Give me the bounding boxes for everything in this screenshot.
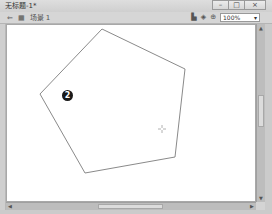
- scroll-right-arrow-icon[interactable]: ▶: [249, 203, 255, 210]
- scroll-left-arrow-icon[interactable]: ◀: [7, 203, 13, 210]
- scroll-down-arrow-icon[interactable]: ▼: [258, 195, 264, 201]
- step-number-badge: 2: [62, 90, 73, 101]
- vertical-scrollbar[interactable]: ▲ ▼: [256, 24, 265, 202]
- crosshair-cursor-icon: [158, 125, 166, 133]
- pentagon-shape[interactable]: [0, 0, 272, 214]
- vertical-scroll-thumb[interactable]: [258, 95, 264, 127]
- right-panel-edge: [265, 24, 272, 214]
- scroll-corner: [256, 202, 265, 210]
- app-window: 无标题-1* – □ × ⇐ ▦ 场景 1 ▙ ◈ ⊕ 100% ▾ 2 ▲: [0, 0, 272, 214]
- horizontal-scrollbar[interactable]: ◀ ▶: [6, 202, 256, 210]
- bottom-edge: [0, 210, 272, 214]
- scroll-up-arrow-icon[interactable]: ▲: [258, 25, 264, 31]
- horizontal-scroll-thumb[interactable]: [98, 204, 163, 209]
